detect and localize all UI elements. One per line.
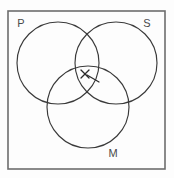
venn-diagram-canvas: P S M [0, 0, 174, 178]
set-label-m: M [108, 147, 117, 159]
center-x-mark [81, 70, 89, 78]
venn-diagram-figure: P S M [0, 0, 174, 178]
set-label-s: S [143, 17, 150, 29]
set-label-p: P [17, 17, 24, 29]
venn-circle-s [75, 22, 157, 104]
venn-circle-m [47, 66, 129, 148]
